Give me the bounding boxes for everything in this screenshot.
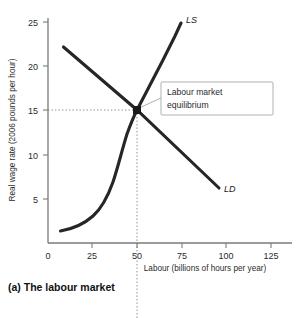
labour-supply-curve-label: LS <box>186 15 197 25</box>
y-tick-label-5: 5 <box>33 195 38 205</box>
labour-supply-curve <box>61 23 182 231</box>
labour-demand-curve-label: LD <box>224 184 236 194</box>
x-tick-label-0: 0 <box>45 251 50 261</box>
labour-demand-curve <box>64 47 220 188</box>
x-tick-label-125: 125 <box>263 251 278 261</box>
equilibrium-annotation-line2: equilibrium <box>167 100 209 110</box>
x-tick-label-75: 75 <box>177 251 187 261</box>
x-tick-label-100: 100 <box>218 251 233 261</box>
x-axis-title: Labour (billions of hours per year) <box>144 264 267 273</box>
x-tick-label-25: 25 <box>87 251 97 261</box>
x-axis-ticks <box>92 243 271 248</box>
y-axis-ticks <box>43 22 48 199</box>
equilibrium-annotation-line1: Labour market <box>167 87 223 97</box>
y-tick-label-15: 15 <box>28 106 38 116</box>
y-axis-title: Real wage rate (2006 pounds per hour) <box>8 58 17 201</box>
y-tick-label-10: 10 <box>28 151 38 161</box>
x-tick-label-50: 50 <box>132 251 142 261</box>
y-tick-label-25: 25 <box>28 18 38 28</box>
figure-caption: (a) The labour market <box>8 281 115 293</box>
equilibrium-point-marker <box>133 106 141 114</box>
labour-market-chart: 25 20 15 10 5 0 25 50 75 100 125 Real wa… <box>0 0 298 318</box>
y-tick-label-20: 20 <box>28 62 38 72</box>
